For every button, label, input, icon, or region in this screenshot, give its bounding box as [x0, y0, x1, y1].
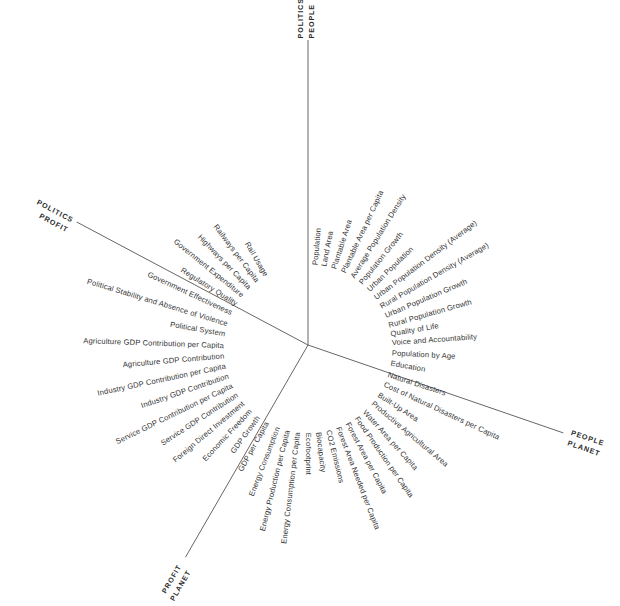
- axis-endpoint-label-politics: POLITICS: [296, 0, 305, 39]
- axis-endpoint-label-people: PEOPLE: [307, 4, 316, 39]
- axis-lines-group: [0, 0, 620, 606]
- radial-diagram-canvas: PopulationLand AreaPlantable AreaPlantab…: [0, 0, 620, 606]
- indicator-label: Ecofootprint: [304, 433, 312, 475]
